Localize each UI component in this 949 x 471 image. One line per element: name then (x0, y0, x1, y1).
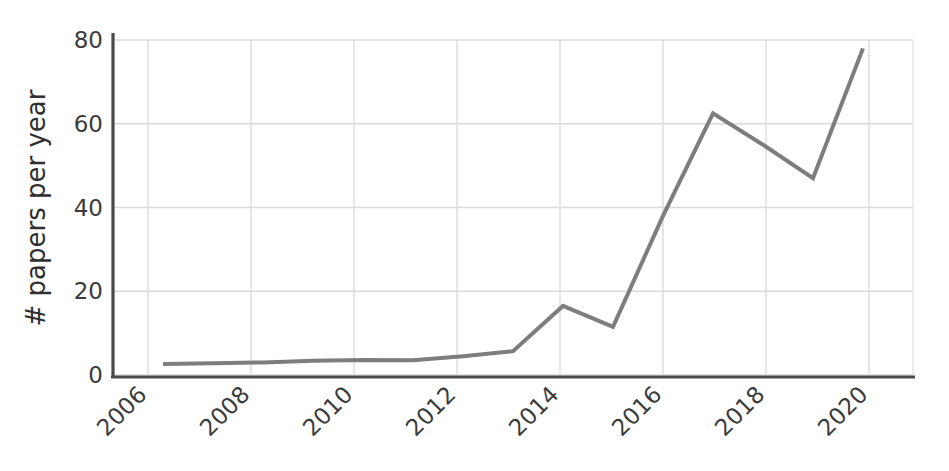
y-tick-0: 0 (88, 362, 103, 388)
y-tick-80: 80 (74, 27, 103, 53)
y-tick-labels: 80 60 40 20 0 (74, 27, 103, 388)
chart-container: 80 60 40 20 0 2006 2008 2010 2012 2014 2… (0, 0, 949, 471)
y-tick-20: 20 (74, 278, 103, 304)
x-tick-labels: 2006 2008 2010 2012 2014 2016 2018 2020 (92, 381, 873, 441)
x-tick-2008: 2008 (195, 381, 255, 441)
line-chart: 80 60 40 20 0 2006 2008 2010 2012 2014 2… (0, 0, 949, 471)
x-tick-2014: 2014 (504, 381, 564, 441)
y-tick-60: 60 (74, 111, 103, 137)
y-axis-title: # papers per year (21, 89, 51, 326)
x-tick-2016: 2016 (607, 381, 667, 441)
x-tick-2012: 2012 (401, 381, 461, 441)
x-tick-2018: 2018 (710, 381, 770, 441)
x-tick-2020: 2020 (813, 381, 873, 441)
x-tick-2010: 2010 (298, 381, 358, 441)
x-tick-2006: 2006 (92, 381, 152, 441)
y-tick-40: 40 (74, 195, 103, 221)
